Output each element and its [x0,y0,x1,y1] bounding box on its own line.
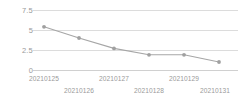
x-tick-label-20210127: 20210127 [99,75,129,82]
series-marker-2 [112,47,116,51]
series-marker-0 [42,25,46,29]
x-axis-baseline [33,70,238,71]
x-tick-label-20210128: 20210128 [134,87,164,94]
plot-area [33,10,238,70]
x-tick-label-20210126: 20210126 [64,87,94,94]
line-chart: 7.5 5 2.5 0 20210125 20210126 20210127 2… [0,0,242,105]
series-marker-5 [217,60,221,64]
series-marker-4 [182,53,186,57]
series-marker-3 [147,53,151,57]
series-line-path [44,27,219,62]
x-tick-label-20210125: 20210125 [29,75,59,82]
series-marker-1 [77,36,81,40]
y-tick-label-2: 2.5 [22,46,33,55]
x-tick-label-20210129: 20210129 [169,75,199,82]
x-tick-label-20210131: 20210131 [200,87,230,94]
series-graphic [33,10,238,70]
y-tick-label-0: 7.5 [22,6,33,15]
